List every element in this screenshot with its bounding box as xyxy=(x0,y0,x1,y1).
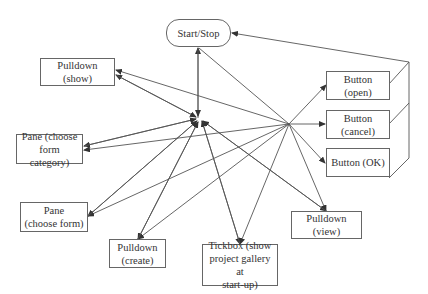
node-label: Button xyxy=(344,112,373,125)
node-start-stop: Start/Stop xyxy=(166,19,231,47)
node-pulldown-view: Pulldown (view) xyxy=(291,211,362,239)
node-pane-form-category: Pane (choose form category) xyxy=(16,134,83,164)
node-label: project gallery at xyxy=(205,252,275,278)
node-label: Pulldown xyxy=(117,241,157,254)
node-label: (cancel) xyxy=(341,125,375,138)
node-button-ok: Button (OK) xyxy=(326,148,390,177)
node-label: Button (OK) xyxy=(331,156,384,169)
node-label: Pulldown (show) xyxy=(43,59,112,85)
node-label: start-up) xyxy=(222,278,258,291)
diagram-canvas: Start/Stop Pulldown (show) Pane (choose … xyxy=(0,0,428,294)
node-button-open: Button (open) xyxy=(326,71,390,100)
node-label: Pulldown (view) xyxy=(294,212,359,238)
node-label: Button xyxy=(344,73,373,86)
node-pane-choose-form: Pane (choose form) xyxy=(20,202,88,232)
node-label: Start/Stop xyxy=(177,27,219,40)
node-tickbox-show-gallery: Tickbox (show project gallery at start-u… xyxy=(202,244,278,286)
node-label: (create) xyxy=(121,254,153,267)
node-label: form category) xyxy=(19,143,80,169)
node-button-cancel: Button (cancel) xyxy=(326,110,390,139)
node-label: Pane (choose xyxy=(22,130,78,143)
node-pulldown-create: Pulldown (create) xyxy=(109,239,166,268)
node-label: (open) xyxy=(344,86,371,99)
node-label: (choose form) xyxy=(24,217,83,230)
node-label: Tickbox (show xyxy=(209,239,272,252)
node-label: Pane xyxy=(44,204,64,217)
node-pulldown-show: Pulldown (show) xyxy=(40,58,115,86)
